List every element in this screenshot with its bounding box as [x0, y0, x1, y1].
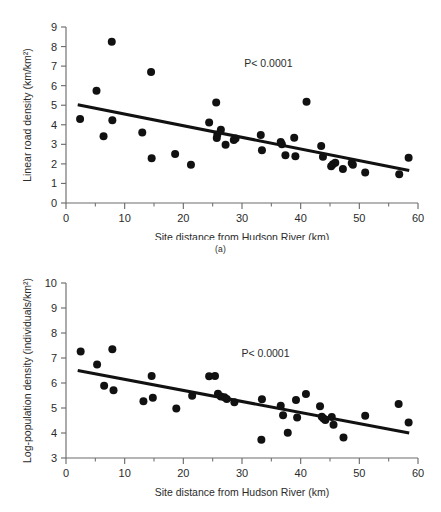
- data-point: [222, 141, 230, 149]
- data-point: [284, 429, 292, 437]
- p-value-annotation: P< 0.0001: [241, 347, 289, 359]
- data-point: [257, 131, 265, 139]
- x-tick-label: 20: [177, 212, 189, 224]
- y-tick-label: 9: [51, 302, 57, 314]
- x-tick-label: 60: [412, 467, 424, 479]
- data-point: [258, 395, 266, 403]
- data-point: [211, 372, 219, 380]
- data-point: [330, 421, 338, 429]
- data-point: [291, 152, 299, 160]
- data-point: [187, 161, 195, 169]
- data-point: [395, 170, 403, 178]
- x-tick-label: 20: [177, 467, 189, 479]
- trendline-b: [78, 371, 409, 434]
- data-point: [100, 132, 108, 140]
- data-point: [93, 87, 101, 95]
- data-point: [331, 159, 339, 167]
- y-tick-label: 10: [45, 277, 57, 289]
- data-point: [405, 154, 413, 162]
- data-point: [281, 151, 289, 159]
- trendline-a: [78, 105, 409, 171]
- p-value-annotation: P< 0.0001: [244, 57, 292, 69]
- x-tick-label: 0: [63, 467, 69, 479]
- axes-group-b: [61, 283, 418, 464]
- x-tick-label: 40: [295, 212, 307, 224]
- scatter-plot-b: 0102030405060345678910Site distance from…: [0, 256, 441, 512]
- y-tick-label: 8: [51, 41, 57, 53]
- data-point: [293, 414, 301, 422]
- x-tick-label: 60: [412, 212, 424, 224]
- data-point: [292, 396, 300, 404]
- y-tick-label: 7: [51, 60, 57, 72]
- y-tick-label: 8: [51, 327, 57, 339]
- data-point: [361, 412, 369, 420]
- x-tick-label: 10: [119, 212, 131, 224]
- data-point: [339, 434, 347, 442]
- x-axis-title: Site distance from Hudson River (km): [155, 231, 329, 240]
- data-point: [317, 142, 325, 150]
- x-axis-title: Site distance from Hudson River (km): [155, 486, 329, 498]
- data-point: [279, 411, 287, 419]
- data-point: [100, 382, 108, 390]
- y-tick-label: 3: [51, 452, 57, 464]
- data-point: [339, 165, 347, 173]
- data-point: [361, 168, 369, 176]
- x-tick-label: 50: [353, 467, 365, 479]
- data-point: [290, 134, 298, 142]
- y-tick-label: 3: [51, 138, 57, 150]
- data-point: [148, 372, 156, 380]
- data-point: [205, 118, 213, 126]
- y-tick-label: 9: [51, 21, 57, 33]
- data-point: [108, 38, 116, 46]
- data-point: [258, 146, 266, 154]
- y-tick-label: 7: [51, 352, 57, 364]
- data-points-b: [77, 345, 413, 444]
- data-point: [172, 405, 180, 413]
- y-tick-label: 5: [51, 99, 57, 111]
- y-axis-title: Linear road density (km/km²): [21, 48, 33, 182]
- chart-panel-b: 0102030405060345678910Site distance from…: [0, 256, 441, 512]
- y-tick-label: 6: [51, 80, 57, 92]
- data-point: [108, 345, 116, 353]
- data-point: [77, 348, 85, 356]
- x-tick-label: 0: [63, 212, 69, 224]
- figure-container: 01020304050600123456789Site distance fro…: [0, 0, 441, 512]
- regression-line: [78, 105, 409, 171]
- data-point: [349, 161, 357, 169]
- data-point: [147, 68, 155, 76]
- y-tick-label: 2: [51, 158, 57, 170]
- y-tick-label: 4: [51, 427, 57, 439]
- y-tick-label: 1: [51, 177, 57, 189]
- data-point: [139, 397, 147, 405]
- axis-labels-b: 0102030405060345678910Site distance from…: [21, 277, 424, 498]
- y-tick-label: 6: [51, 377, 57, 389]
- y-tick-label: 0: [51, 197, 57, 209]
- data-point: [76, 115, 84, 123]
- data-point: [316, 402, 324, 410]
- data-point: [405, 419, 413, 427]
- data-point: [257, 436, 265, 444]
- data-point: [303, 98, 311, 106]
- regression-line: [78, 371, 409, 434]
- data-point: [171, 150, 179, 158]
- data-point: [110, 386, 118, 394]
- data-point: [108, 116, 116, 124]
- scatter-plot-a: 01020304050600123456789Site distance fro…: [0, 0, 441, 240]
- data-point: [395, 400, 403, 408]
- data-point: [93, 361, 101, 369]
- panel-a-caption: (a): [0, 244, 441, 254]
- x-tick-label: 30: [236, 467, 248, 479]
- y-tick-label: 5: [51, 402, 57, 414]
- x-tick-label: 10: [119, 467, 131, 479]
- y-tick-label: 4: [51, 119, 57, 131]
- x-tick-label: 30: [236, 212, 248, 224]
- chart-panel-a: 01020304050600123456789Site distance fro…: [0, 0, 441, 256]
- x-tick-label: 40: [295, 467, 307, 479]
- data-point: [212, 98, 220, 106]
- x-tick-label: 50: [353, 212, 365, 224]
- y-axis-title: Log-population density (individuals/km²): [21, 278, 33, 463]
- data-point: [302, 390, 310, 398]
- data-point: [138, 128, 146, 136]
- data-point: [149, 394, 157, 402]
- data-point: [148, 154, 156, 162]
